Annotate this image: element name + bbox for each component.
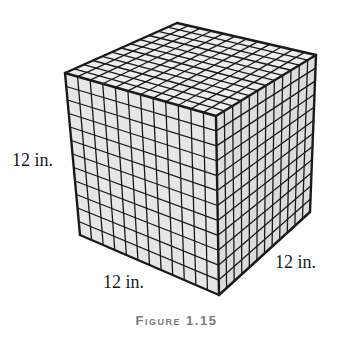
height-dimension-label: 12 in. [12, 151, 53, 169]
width-dimension-label: 12 in. [103, 273, 144, 291]
depth-dimension-label: 12 in. [275, 253, 316, 271]
figure-caption: Figure 1.15 [0, 313, 353, 328]
cube-diagram [0, 0, 353, 348]
